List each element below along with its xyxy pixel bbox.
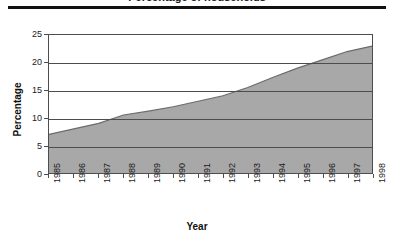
x-tick-label: 1986 xyxy=(77,163,87,183)
x-tick-label: 1996 xyxy=(327,163,337,183)
y-tick-mark xyxy=(44,118,48,119)
x-axis-title: Year xyxy=(0,221,394,232)
x-tick-label: 1997 xyxy=(352,163,362,183)
header-rule xyxy=(8,6,386,9)
x-tick-label: 1988 xyxy=(127,163,137,183)
x-axis-ticks: 1985198619871988198919901991199219931994… xyxy=(0,174,394,175)
x-tick-label: 1992 xyxy=(227,163,237,183)
grid-line xyxy=(49,63,372,64)
x-tick-label: 1998 xyxy=(377,163,387,183)
x-tick-label: 1985 xyxy=(52,163,62,183)
y-tick-mark xyxy=(44,174,48,175)
x-tick-mark xyxy=(123,174,124,178)
x-tick-mark xyxy=(298,174,299,178)
x-tick-mark xyxy=(73,174,74,178)
plot-area xyxy=(48,34,373,174)
x-tick-mark xyxy=(348,174,349,178)
x-tick-label: 1990 xyxy=(177,163,187,183)
x-tick-mark xyxy=(223,174,224,178)
chart-page: Percentage of households 0510152025 Perc… xyxy=(0,0,394,240)
x-tick-label: 1989 xyxy=(152,163,162,183)
x-tick-label: 1995 xyxy=(302,163,312,183)
y-tick-label: 15 xyxy=(32,85,42,95)
y-tick-mark xyxy=(44,34,48,35)
y-tick-label: 10 xyxy=(32,113,42,123)
y-tick-mark xyxy=(44,62,48,63)
grid-line xyxy=(49,91,372,92)
x-tick-mark xyxy=(173,174,174,178)
clipped-title-text: Percentage of households xyxy=(128,0,266,3)
x-tick-mark xyxy=(273,174,274,178)
y-tick-mark xyxy=(44,146,48,147)
y-tick-label: 25 xyxy=(32,29,42,39)
x-tick-label: 1994 xyxy=(277,163,287,183)
x-tick-mark xyxy=(98,174,99,178)
x-tick-mark xyxy=(198,174,199,178)
x-tick-mark xyxy=(248,174,249,178)
area-series xyxy=(49,35,372,173)
y-tick-label: 20 xyxy=(32,57,42,67)
x-tick-label: 1993 xyxy=(252,163,262,183)
y-tick-mark xyxy=(44,90,48,91)
x-tick-label: 1987 xyxy=(102,163,112,183)
x-tick-mark xyxy=(323,174,324,178)
x-tick-mark xyxy=(373,174,374,178)
x-tick-mark xyxy=(48,174,49,178)
grid-line xyxy=(49,119,372,120)
grid-line xyxy=(49,147,372,148)
y-axis-title: Percentage xyxy=(12,67,23,153)
x-tick-mark xyxy=(148,174,149,178)
y-tick-label: 5 xyxy=(37,141,42,151)
x-tick-label: 1991 xyxy=(202,163,212,183)
